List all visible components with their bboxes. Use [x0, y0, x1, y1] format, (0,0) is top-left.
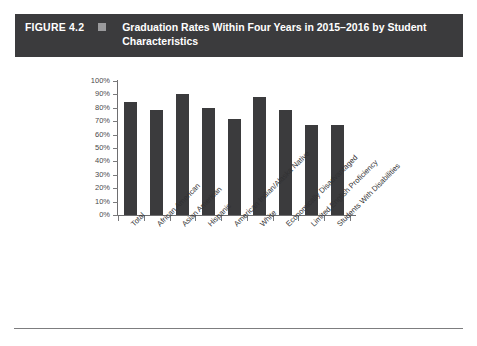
y-axis-tick-label: 80%: [78, 108, 110, 118]
y-axis-tick-label: 50%: [78, 148, 110, 158]
bar: [228, 119, 241, 215]
x-axis-tick: [118, 216, 119, 221]
bar: [150, 110, 163, 215]
bar-chart: 0%10%20%30%40%50%60%70%80%90%100% TotalA…: [0, 62, 477, 312]
y-axis-tick-label: 30%: [78, 175, 110, 185]
figure-header-bar: FIGURE 4.2 Graduation Rates Within Four …: [15, 14, 463, 57]
y-axis-tick-label: 100%: [78, 81, 110, 91]
y-axis-tick-label: 20%: [78, 188, 110, 198]
y-axis-tick-label: 70%: [78, 121, 110, 131]
footer-divider: [14, 328, 463, 329]
square-marker-icon: [98, 23, 106, 31]
y-axis-tick-label: 90%: [78, 94, 110, 104]
y-axis-tick-label: 60%: [78, 135, 110, 145]
bar: [124, 102, 137, 215]
y-axis-tick-label: 40%: [78, 161, 110, 171]
figure-title: Graduation Rates Within Four Years in 20…: [122, 21, 452, 48]
y-axis-tick-label: 10%: [78, 202, 110, 212]
y-axis-tick-label-text: 100%: [78, 76, 110, 85]
y-axis-tick-label: 0%: [78, 215, 110, 225]
figure-number-label: FIGURE 4.2: [25, 21, 84, 33]
